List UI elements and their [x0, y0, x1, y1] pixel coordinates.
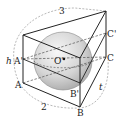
- label-top: 3: [59, 6, 65, 16]
- label-right: t: [99, 82, 103, 92]
- label-b-prime: B': [70, 89, 79, 99]
- label-c: C: [107, 53, 114, 63]
- label-c-prime: C': [107, 29, 116, 39]
- diagram-canvas: 3 h 2 t A' A B' B C C' O': [0, 0, 122, 120]
- label-bottom: 2: [41, 102, 47, 112]
- label-b: B: [77, 108, 84, 118]
- label-a: A: [14, 80, 22, 90]
- prism-sphere-diagram: 3 h 2 t A' A B' B C C' O': [0, 0, 122, 120]
- label-o-prime: O': [54, 56, 64, 66]
- edge-top-right: [80, 11, 106, 58]
- label-left: h: [6, 56, 12, 66]
- label-a-prime: A': [13, 56, 23, 66]
